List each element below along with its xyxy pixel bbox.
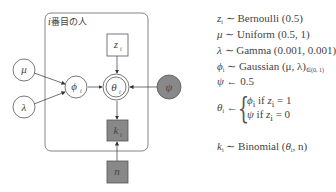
- equation-phi: ϕi ∼ Gaussian (μ, λ)∈(0, 1): [217, 60, 324, 73]
- node-n: n: [107, 161, 128, 183]
- node-lambda: λ: [13, 96, 35, 118]
- svg-text:λ: λ: [21, 101, 27, 113]
- equation-psi: ψ ← 0.5: [217, 75, 254, 87]
- edge-lambda-phi: [34, 92, 65, 104]
- svg-text:ψ: ψ: [166, 81, 173, 93]
- theta-case-2: ψ if zi = 0: [247, 108, 290, 123]
- graphical-model: μ λ ϕ i θ i ψ z i k i n: [0, 0, 210, 192]
- node-mu: μ: [13, 59, 35, 81]
- plate: [45, 13, 148, 151]
- node-psi: ψ: [157, 75, 181, 99]
- node-phi: ϕ i: [65, 76, 87, 98]
- svg-text:μ: μ: [20, 63, 27, 75]
- svg-text:n: n: [114, 165, 120, 177]
- equation-lambda: λ ∼ Gamma (0.001, 0.001): [217, 44, 336, 57]
- node-k: k i: [107, 120, 128, 141]
- theta-case-1: ϕi if zi = 1: [247, 94, 292, 109]
- node-theta: θ i: [103, 74, 129, 100]
- svg-text:θ: θ: [111, 81, 117, 93]
- equation-mu: μ ∼ Uniform (0.5, 1): [217, 28, 310, 41]
- edge-mu-phi: [34, 73, 65, 84]
- node-z: z i: [107, 34, 128, 56]
- equation-k: ki ∼ Binomial (θi, n): [217, 140, 307, 153]
- plate-label: i番目の人: [48, 15, 87, 28]
- svg-text:z: z: [113, 38, 119, 50]
- equation-z: zi ∼ Bernoulli (0.5): [217, 12, 303, 25]
- svg-text:ϕ: ϕ: [71, 80, 77, 92]
